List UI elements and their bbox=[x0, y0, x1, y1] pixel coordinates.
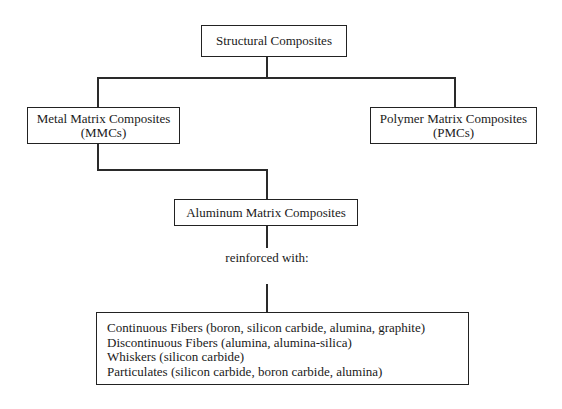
connector-branch-bar bbox=[97, 77, 456, 79]
connector-mmc-down bbox=[97, 144, 99, 171]
node-aluminum-matrix-composites: Aluminum Matrix Composites bbox=[174, 199, 358, 226]
node-polymer-matrix-composites: Polymer Matrix Composites (PMCs) bbox=[370, 107, 537, 144]
node-label: Polymer Matrix Composites bbox=[380, 112, 527, 126]
connector-amc-down bbox=[266, 225, 268, 248]
reinforcement-item-discontinuous-fibers: Discontinuous Fibers (alumina, alumina-s… bbox=[107, 336, 468, 351]
connector-to-mmc bbox=[97, 77, 99, 108]
node-label: Metal Matrix Composites bbox=[37, 112, 171, 126]
node-label-abbrev: (MMCs) bbox=[81, 126, 127, 140]
node-structural-composites: Structural Composites bbox=[201, 25, 347, 57]
node-label-abbrev: (PMCs) bbox=[433, 126, 474, 140]
node-label: Structural Composites bbox=[216, 34, 332, 48]
connector-root-down bbox=[266, 56, 268, 79]
reinforcement-item-whiskers: Whiskers (silicon carbide) bbox=[107, 350, 468, 365]
reinforcement-item-continuous-fibers: Continuous Fibers (boron, silicon carbid… bbox=[107, 321, 468, 336]
node-label: Aluminum Matrix Composites bbox=[186, 206, 346, 220]
node-metal-matrix-composites: Metal Matrix Composites (MMCs) bbox=[27, 107, 180, 144]
node-reinforcement-types: Continuous Fibers (boron, silicon carbid… bbox=[96, 312, 469, 385]
connector-mmc-to-amc-bar bbox=[97, 169, 268, 171]
connector-to-reinforcements bbox=[266, 284, 268, 313]
reinforcement-item-particulates: Particulates (silicon carbide, boron car… bbox=[107, 365, 468, 380]
connector-label-reinforced-with: reinforced with: bbox=[200, 251, 334, 265]
connector-to-pmc bbox=[454, 77, 456, 108]
connector-to-amc bbox=[266, 169, 268, 200]
